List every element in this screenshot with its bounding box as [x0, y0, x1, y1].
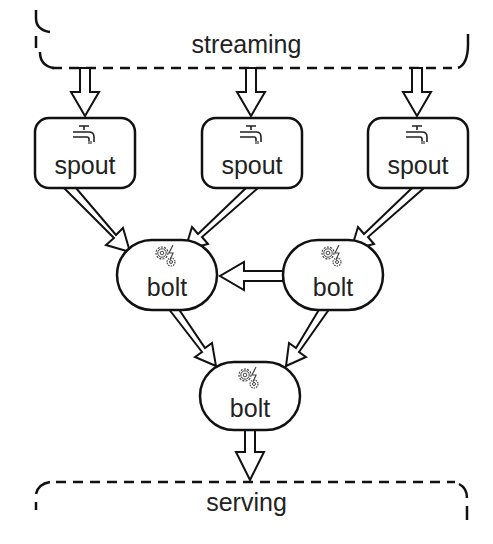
edge-bolt2-bolt1: [220, 262, 283, 290]
edge-spout2-bolt1: [185, 188, 258, 250]
edge-spout1-bolt1: [64, 188, 130, 252]
spout-label-1: spout: [35, 151, 135, 180]
edge-streaming-spout2: [237, 68, 265, 116]
bolt-label-2: bolt: [283, 273, 383, 302]
bolt-label-3: bolt: [200, 394, 300, 423]
streaming-label: streaming: [0, 30, 493, 59]
edge-bolt2-bolt3: [286, 308, 330, 366]
edge-streaming-spout1: [71, 68, 99, 116]
topology-diagram: [0, 0, 493, 544]
edge-bolt1-bolt3: [168, 308, 216, 366]
spout-label-2: spout: [202, 151, 302, 180]
spout-label-3: spout: [368, 151, 468, 180]
edge-bolt3-serving: [236, 430, 264, 480]
edge-streaming-spout3: [403, 68, 431, 116]
bolt-label-1: bolt: [117, 273, 217, 302]
edge-spout3-bolt2: [351, 188, 424, 250]
serving-label: serving: [0, 488, 493, 517]
